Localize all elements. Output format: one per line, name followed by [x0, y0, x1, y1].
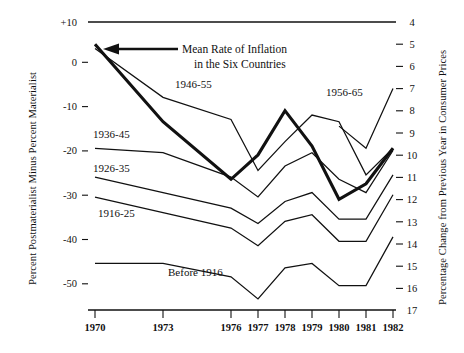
xtick-label: 1980	[329, 322, 350, 333]
y2tick-label: 13	[407, 217, 418, 228]
ytick-label: -20	[63, 145, 77, 156]
x-axis-tick-labels: 1970 1973 1976 1977 1978 1979 1980 1981 …	[85, 322, 404, 333]
xtick-label: 1970	[85, 322, 106, 333]
series-label-before-1916: Before 1916	[168, 266, 223, 278]
y-axis-title: Percent Postmaterialist Minus Percent Ma…	[27, 72, 38, 285]
series-label-inflation-line1: Mean Rate of Inflation	[182, 43, 287, 55]
ytick-label: +10	[61, 17, 77, 28]
ytick-label: -50	[63, 278, 77, 289]
xtick-label: 1977	[248, 322, 269, 333]
y2tick-label: 10	[407, 150, 418, 161]
ytick-label: -30	[63, 190, 77, 201]
left-axis-tick-labels: +10 0 -10 -20 -30 -40 -50	[61, 17, 77, 289]
chart-container: +10 0 -10 -20 -30 -40 -50 4 5	[0, 0, 464, 353]
y2tick-label: 5	[409, 39, 414, 50]
right-axis-tick-labels: 4 5 6 7 8 9 10 11 12 13 14 15 16 17	[407, 17, 418, 316]
y2-axis-title: Percentage Change from Previous Year in …	[437, 50, 448, 305]
x-axis-ticks	[95, 310, 393, 318]
y2tick-label: 14	[407, 239, 418, 250]
xtick-label: 1979	[302, 322, 323, 333]
series-path-1936-45	[95, 148, 393, 197]
xtick-label: 1981	[356, 322, 377, 333]
series-label-1926-35: 1926-35	[93, 162, 130, 174]
xtick-label: 1982	[383, 322, 404, 333]
right-axis-ticks	[396, 44, 403, 288]
y2tick-label: 15	[407, 261, 418, 272]
y2tick-label: 11	[407, 172, 417, 183]
ytick-label: 0	[72, 57, 77, 68]
series-label-inflation-line2: in the Six Countries	[194, 58, 286, 70]
y2tick-label: 6	[409, 61, 414, 72]
inflation-callout-arrow	[103, 44, 178, 55]
xtick-label: 1976	[221, 322, 242, 333]
y2tick-label: 12	[407, 194, 418, 205]
series-layer	[95, 44, 393, 299]
line-chart: +10 0 -10 -20 -30 -40 -50 4 5	[0, 0, 464, 353]
series-label-1946-55: 1946-55	[175, 78, 212, 90]
y2tick-label: 8	[409, 105, 414, 116]
series-path-1926-35	[95, 175, 393, 224]
series-label-1936-45: 1936-45	[93, 128, 130, 140]
y2tick-label: 7	[409, 83, 414, 94]
y2tick-label: 16	[407, 283, 418, 294]
series-label-1916-25: 1916-25	[98, 207, 135, 219]
series-label-1956-65: 1956-65	[326, 86, 363, 98]
y2tick-label: 9	[409, 128, 414, 139]
left-axis-ticks	[82, 62, 88, 283]
ytick-label: -10	[63, 101, 77, 112]
xtick-label: 1978	[275, 322, 296, 333]
y2tick-label: 17	[407, 305, 418, 316]
xtick-label: 1973	[153, 322, 174, 333]
series-path-1916-25	[95, 195, 393, 246]
series-path-before-1916	[95, 237, 393, 299]
ytick-label: -40	[63, 234, 77, 245]
y2tick-label: 4	[409, 17, 415, 28]
